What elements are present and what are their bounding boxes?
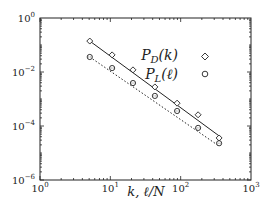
y-minor-ticks — [40, 19, 251, 180]
y-tick-labels: 10010−210−410−6 — [12, 11, 36, 186]
x-minor-ticks — [40, 18, 248, 180]
circle-marker-icon — [87, 54, 92, 59]
circle-marker-icon — [110, 65, 115, 70]
circle-marker-icon — [152, 93, 157, 98]
x-axis-label: k, ℓ/N — [127, 184, 165, 198]
diamond-marker-icon — [202, 53, 209, 60]
x-tick-label: 100 — [31, 181, 48, 194]
diamond-marker-icon — [130, 67, 136, 73]
legend-entry-pl: PL(ℓ) — [144, 66, 208, 84]
diamond-marker-icon — [195, 112, 201, 118]
x-tick-label: 101 — [102, 181, 119, 194]
legend-entry-pd: PD(k) — [140, 47, 208, 65]
circle-marker-icon — [202, 71, 208, 77]
circle-marker-icon — [175, 108, 180, 113]
loglog-chart: 100101102103 10010−210−410−6 k, ℓ/N PD(k… — [0, 0, 269, 198]
circle-marker-icon — [130, 80, 135, 85]
svg-text:PL(ℓ): PL(ℓ) — [144, 66, 178, 84]
circle-marker-icon — [196, 125, 201, 130]
y-tick-label: 10−4 — [12, 119, 36, 132]
circle-marker-icon — [217, 141, 222, 146]
x-tick-label: 102 — [172, 181, 189, 194]
diamond-marker-icon — [152, 84, 158, 90]
plot-frame — [40, 18, 251, 180]
y-tick-label: 100 — [18, 11, 35, 24]
svg-text:PD(k): PD(k) — [140, 47, 178, 65]
legend: PD(k) PL(ℓ) — [140, 47, 208, 84]
y-tick-label: 10−2 — [12, 65, 35, 78]
diamond-marker-icon — [109, 52, 115, 58]
diamond-marker-icon — [174, 100, 180, 106]
x-tick-label: 103 — [242, 181, 259, 194]
diamond-marker-icon — [216, 135, 222, 141]
